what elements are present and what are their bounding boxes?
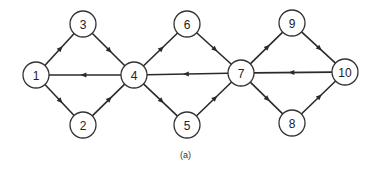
figure-caption: (a): [180, 150, 191, 160]
node-label: 4: [131, 69, 138, 83]
node-label: 5: [184, 119, 191, 133]
edge-5-to-7: [196, 82, 231, 116]
edge-8-to-10: [301, 81, 335, 114]
edge-3-to-4: [92, 33, 125, 66]
node-label: 8: [289, 117, 296, 131]
edge-10-to-7: [254, 70, 332, 75]
edge-9-to-10: [302, 32, 336, 63]
node-3: 3: [70, 11, 96, 37]
node-2: 2: [70, 112, 96, 138]
edge-7-to-8: [250, 82, 282, 114]
edge-6-to-7: [197, 33, 232, 65]
edge-4-to-5: [143, 84, 177, 116]
arrowhead-icon: [289, 70, 295, 75]
edge-7-to-4: [147, 71, 228, 76]
node-9: 9: [279, 10, 305, 36]
arrowhead-icon: [81, 72, 87, 77]
node-10: 10: [332, 59, 358, 85]
node-label: 6: [184, 18, 191, 32]
edge-4-to-1: [49, 72, 121, 77]
edge-1-to-2: [45, 84, 74, 115]
node-label: 10: [338, 66, 352, 80]
node-label: 1: [33, 69, 40, 83]
node-label: 3: [80, 18, 87, 32]
directed-graph: 12345678910: [0, 0, 375, 172]
node-label: 2: [80, 119, 87, 133]
node-label: 9: [289, 17, 296, 31]
node-5: 5: [174, 112, 200, 138]
edges-layer: [45, 32, 336, 116]
node-6: 6: [174, 11, 200, 37]
arrowhead-icon: [183, 71, 189, 76]
edge-1-to-3: [45, 34, 74, 66]
node-8: 8: [279, 110, 305, 136]
edge-4-to-6: [143, 33, 177, 66]
node-label: 7: [238, 67, 245, 81]
node-4: 4: [121, 62, 147, 88]
edge-2-to-4: [92, 84, 124, 116]
node-7: 7: [228, 60, 254, 86]
edge-7-to-9: [250, 32, 282, 64]
node-1: 1: [23, 62, 49, 88]
